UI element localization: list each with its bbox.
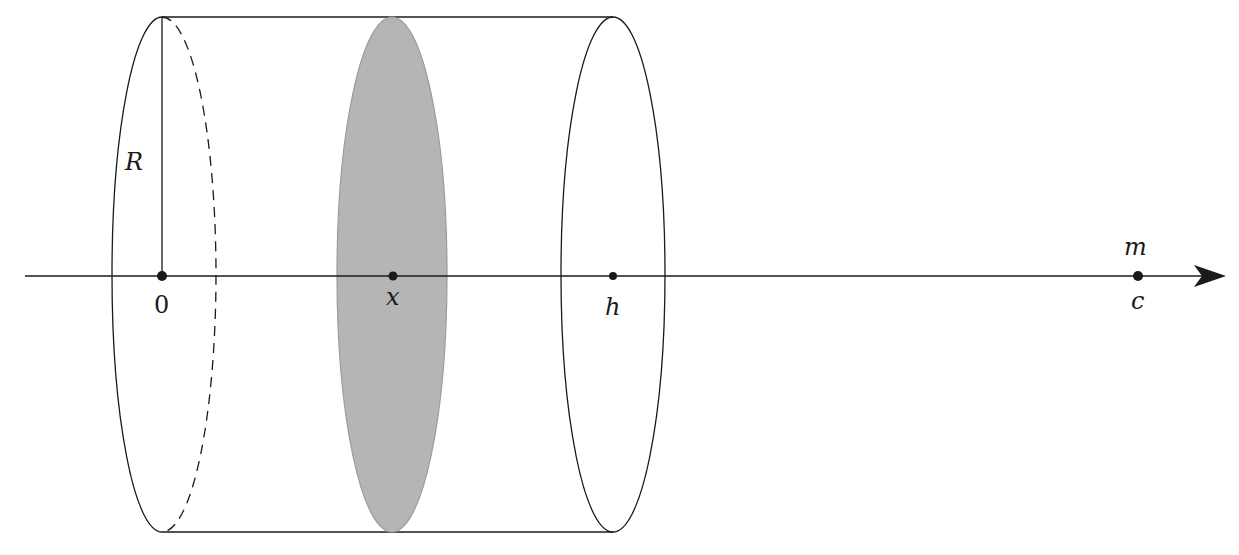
left-end-front-arc bbox=[112, 17, 162, 532]
origin-label: 0 bbox=[154, 291, 169, 319]
end-label: h bbox=[605, 293, 620, 321]
slice-point bbox=[389, 272, 398, 281]
mass-position-label: c bbox=[1131, 287, 1144, 315]
left-end-back-arc bbox=[162, 17, 216, 532]
radius-label: R bbox=[124, 148, 143, 176]
mass-label: m bbox=[1124, 233, 1147, 261]
mass-point bbox=[1133, 271, 1143, 281]
slice-label: x bbox=[386, 283, 400, 311]
end-point bbox=[609, 272, 617, 280]
cylinder-diagram: R 0 x h m c bbox=[0, 0, 1239, 555]
origin-point bbox=[157, 271, 167, 281]
